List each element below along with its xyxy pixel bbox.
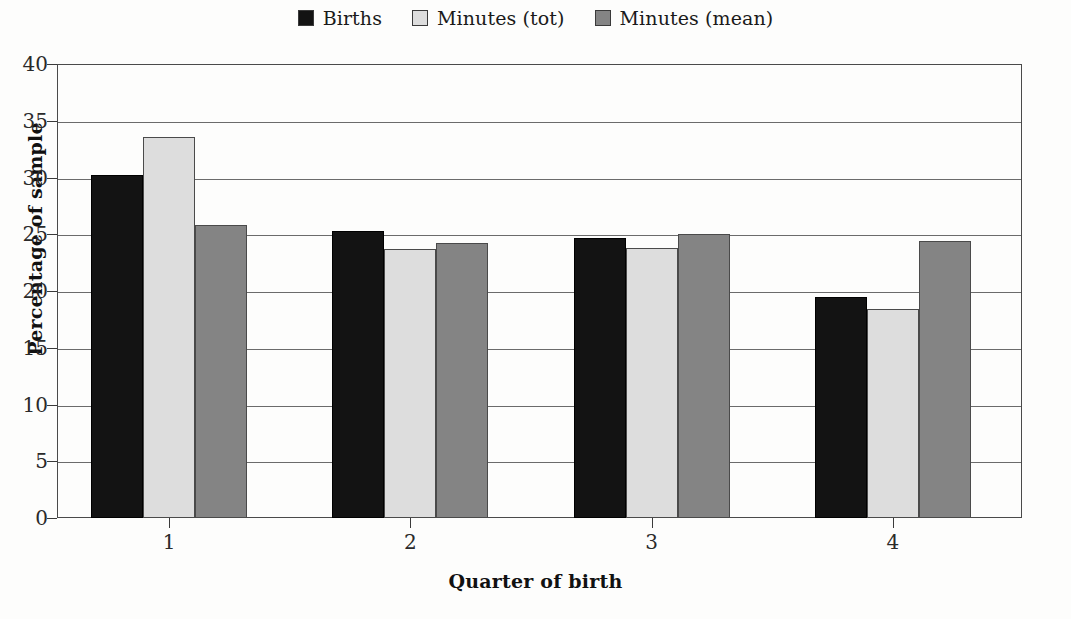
bar-q4-series-2	[919, 241, 971, 518]
bar-q2-series-0	[332, 231, 384, 518]
legend-label-minutes-mean: Minutes (mean)	[620, 7, 774, 29]
legend-swatch-births-icon	[298, 10, 314, 26]
y-tick-mark-25	[47, 234, 57, 235]
x-tick-mark-2	[410, 518, 411, 528]
y-tick-mark-10	[47, 405, 57, 406]
x-tick-mark-4	[893, 518, 894, 528]
x-tick-label-3: 3	[645, 530, 658, 554]
bar-q1-series-1	[143, 137, 195, 518]
legend-entry-minutes-tot: Minutes (tot)	[412, 7, 565, 29]
x-axis-tick-labels: 1234	[57, 530, 1022, 560]
bars-layer	[57, 64, 1022, 518]
x-tick-label-4: 4	[886, 530, 899, 554]
legend-swatch-minutes-tot-icon	[412, 10, 428, 26]
x-axis-title: Quarter of birth	[0, 570, 1071, 592]
bar-q3-series-1	[626, 248, 678, 518]
x-tick-label-1: 1	[163, 530, 176, 554]
x-axis-tick-marks	[57, 518, 1022, 530]
bar-q4-series-1	[867, 309, 919, 518]
x-tick-mark-1	[169, 518, 170, 528]
y-tick-mark-35	[47, 121, 57, 122]
legend-label-births: Births	[323, 7, 382, 29]
chart-legend: Births Minutes (tot) Minutes (mean)	[0, 4, 1071, 32]
y-tick-mark-20	[47, 291, 57, 292]
bar-q3-series-2	[678, 234, 730, 518]
bar-q2-series-1	[384, 249, 436, 518]
y-tick-mark-5	[47, 461, 57, 462]
chart-figure: Births Minutes (tot) Minutes (mean) Perc…	[0, 0, 1071, 619]
y-tick-mark-40	[47, 64, 57, 65]
bar-q2-series-2	[436, 243, 488, 518]
legend-entry-minutes-mean: Minutes (mean)	[595, 7, 774, 29]
legend-swatch-minutes-mean-icon	[595, 10, 611, 26]
bar-q1-series-0	[91, 175, 143, 518]
y-tick-mark-0	[47, 518, 57, 519]
bar-q3-series-0	[574, 238, 626, 518]
legend-entry-births: Births	[298, 7, 382, 29]
y-axis-tick-marks	[0, 64, 57, 518]
y-tick-mark-15	[47, 348, 57, 349]
legend-label-minutes-tot: Minutes (tot)	[437, 7, 565, 29]
y-tick-mark-30	[47, 178, 57, 179]
bar-q4-series-0	[815, 297, 867, 518]
x-tick-mark-3	[652, 518, 653, 528]
bar-q1-series-2	[195, 225, 247, 518]
x-tick-label-2: 2	[404, 530, 417, 554]
